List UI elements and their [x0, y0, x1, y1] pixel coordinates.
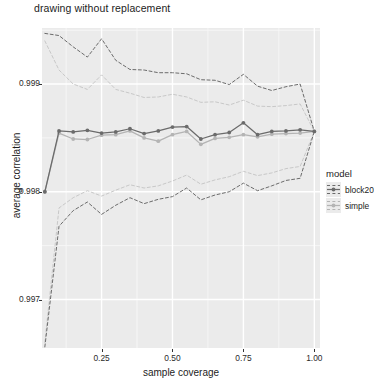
x-tick-label: 0.75 [235, 353, 251, 363]
legend-item-block20[interactable]: block20 [326, 182, 371, 197]
y-tick-mark [39, 84, 42, 85]
x-tick-mark [102, 349, 103, 352]
x-tick-mark [314, 349, 315, 352]
x-tick-mark [243, 349, 244, 352]
y-axis-title: average correlation [11, 116, 22, 236]
x-axis-title: sample coverage [42, 367, 320, 378]
legend-item-simple[interactable]: simple [326, 198, 371, 213]
page-title: drawing without replacement [34, 2, 170, 14]
legend-title: model [326, 168, 371, 179]
series-line-block20-upper [45, 33, 314, 131]
series-line-simple [45, 131, 314, 192]
legend-label: block20 [345, 185, 374, 195]
y-tick-mark [39, 300, 42, 301]
series-line-simple-lower [45, 131, 314, 342]
y-tick-label: 0.998 [19, 186, 40, 196]
legend-label: simple [345, 201, 369, 211]
x-tick-mark [172, 349, 173, 352]
series-line-simple-upper [45, 41, 314, 131]
plot-canvas [42, 28, 320, 348]
legend-key-icon [326, 182, 341, 197]
plot-panel [42, 28, 320, 348]
legend-entries: block20simple [326, 182, 371, 213]
x-tick-label: 0.25 [93, 353, 109, 363]
legend: model block20simple [326, 168, 371, 214]
x-tick-label: 1.00 [306, 353, 322, 363]
x-tick-label: 0.50 [164, 353, 180, 363]
y-tick-mark [39, 192, 42, 193]
legend-key-icon [326, 198, 341, 213]
y-tick-label: 0.997 [19, 294, 40, 304]
y-tick-label: 0.999 [19, 78, 40, 88]
series-markers-simple [43, 129, 316, 194]
series-line-block20-lower [45, 131, 314, 346]
grid-lines [42, 28, 320, 348]
